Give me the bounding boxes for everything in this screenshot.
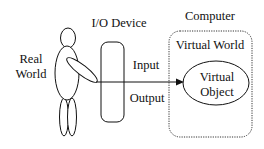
human-figure-icon: [55, 28, 100, 136]
virtual-object-label-line2: Object: [200, 85, 234, 99]
input-label: Input: [133, 58, 160, 72]
io-device-diagram: Real World I/O Device Computer Virtual W…: [0, 0, 264, 149]
virtual-world-label: Virtual World: [176, 38, 245, 52]
computer-label: Computer: [185, 9, 236, 23]
head: [61, 28, 76, 48]
leg-right: [68, 98, 77, 136]
real-world-label-line1: Real: [20, 52, 43, 66]
output-label: Output: [130, 91, 165, 105]
virtual-object-label-line1: Virtual: [200, 70, 235, 84]
body: [55, 46, 79, 100]
io-device-label: I/O Device: [91, 16, 147, 30]
real-world-label-line2: World: [16, 67, 48, 81]
